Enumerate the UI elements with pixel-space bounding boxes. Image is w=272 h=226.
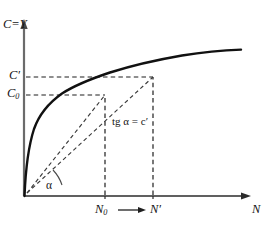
x-axis xyxy=(24,192,251,199)
shift-arrow-icon xyxy=(118,207,146,213)
tick-label-n-prime-mark: ′ xyxy=(158,202,161,216)
annotation-slope-equation: tg α = c′ xyxy=(112,116,148,127)
annotation-slope-greek-alpha: α xyxy=(123,115,129,127)
axis-label-y: C=Y xyxy=(3,18,27,31)
annotation-slope-value: c′ xyxy=(141,115,148,127)
tick-label-n-zero-sub: 0 xyxy=(103,208,107,217)
x-axis-arrowhead xyxy=(241,192,251,199)
tick-label-c-zero-sub: 0 xyxy=(15,92,19,101)
tick-label-c-prime: C′ xyxy=(9,69,20,82)
alpha-angle-arc xyxy=(53,170,62,185)
shift-arrow-head xyxy=(138,207,146,213)
angle-label-alpha: α xyxy=(46,180,52,192)
tick-label-c-zero: C0 xyxy=(7,87,19,100)
production-function-diagram: C=Y N C′ C0 N0 N′ tg α = c′ α xyxy=(0,0,272,226)
diagram-canvas xyxy=(0,0,272,226)
annotation-slope-equals: = xyxy=(132,115,138,127)
axis-label-x: N xyxy=(252,203,260,216)
ray-to-c0 xyxy=(27,95,105,193)
annotation-slope-prefix: tg xyxy=(112,115,121,127)
tick-label-n-zero: N0 xyxy=(95,203,107,216)
tick-label-c-prime-mark: ′ xyxy=(17,68,20,82)
tick-label-n-prime: N′ xyxy=(150,203,161,216)
